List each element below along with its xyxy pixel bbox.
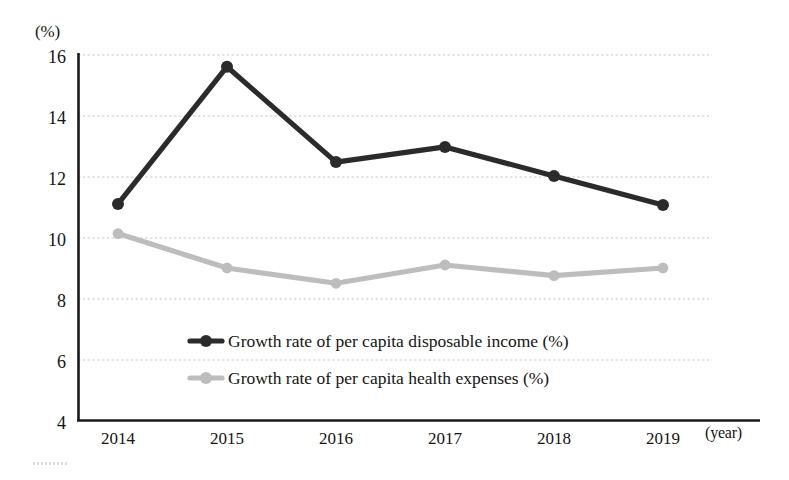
data-point [113,228,124,239]
data-point [112,198,124,210]
legend-marker-1 [190,372,222,384]
axis-lines [77,53,760,421]
data-point [440,260,451,271]
data-point [439,141,451,153]
data-point [222,263,233,274]
data-point [221,61,233,73]
legend-marker-0 [190,335,222,347]
data-point [330,156,342,168]
data-point [331,278,342,289]
data-point [658,263,669,274]
data-point [549,270,560,281]
series-health-expenses [113,228,669,288]
grid-lines [78,55,712,360]
data-point [548,170,560,182]
scan-artifact [33,462,67,465]
line-chart: (%) (year) 16 14 12 10 8 6 4 2014 2015 2… [0,0,789,480]
data-point [657,199,669,211]
series-disposable-income [112,61,669,211]
chart-canvas [0,0,789,480]
